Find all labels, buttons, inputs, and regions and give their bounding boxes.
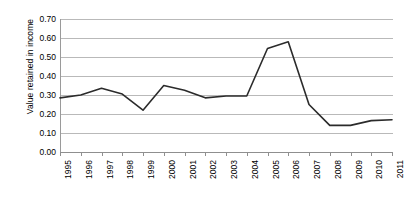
x-tick [371, 152, 372, 156]
x-tick-label: 1998 [126, 160, 135, 179]
x-tick-label: 2000 [168, 160, 177, 179]
x-tick-label: 2001 [189, 160, 198, 179]
x-tick [185, 152, 186, 156]
x-tick [122, 152, 123, 156]
series-polyline [60, 42, 392, 126]
x-tick [309, 152, 310, 156]
x-tick-label: 2003 [230, 160, 239, 179]
x-tick-label: 1999 [147, 160, 156, 179]
x-tick-label: 2006 [292, 160, 301, 179]
x-tick-label: 1995 [64, 160, 73, 179]
x-tick-label: 1997 [106, 160, 115, 179]
x-tick [60, 152, 61, 156]
x-tick [164, 152, 165, 156]
x-tick [330, 152, 331, 156]
x-tick-label: 2004 [251, 160, 260, 179]
x-tick-label: 2005 [272, 160, 281, 179]
x-tick [81, 152, 82, 156]
x-tick [102, 152, 103, 156]
x-tick-label: 2010 [375, 160, 384, 179]
x-tick [268, 152, 269, 156]
y-tick-label: 0.60 [39, 33, 56, 43]
y-tick-label: 0.30 [39, 90, 56, 100]
x-tick [247, 152, 248, 156]
x-tick-label: 2011 [396, 160, 405, 178]
x-tick-label: 2002 [209, 160, 218, 179]
y-tick-label: 0.50 [39, 52, 56, 62]
series-line [60, 19, 392, 152]
y-tick-label: 0.00 [39, 147, 56, 157]
y-tick-label: 0.20 [39, 109, 56, 119]
x-tick [205, 152, 206, 156]
x-tick-label: 2009 [355, 160, 364, 179]
y-axis-tick-labels: 0.700.600.500.400.300.200.100.00 [22, 14, 56, 159]
y-tick-label: 0.10 [39, 128, 56, 138]
y-tick-label: 0.70 [39, 14, 56, 24]
x-tick [351, 152, 352, 156]
x-tick [143, 152, 144, 156]
x-tick-label: 2008 [334, 160, 343, 179]
y-tick-label: 0.40 [39, 71, 56, 81]
x-tick-label: 1996 [85, 160, 94, 179]
x-tick [288, 152, 289, 156]
x-tick-label: 2007 [313, 160, 322, 179]
x-tick [226, 152, 227, 156]
x-tick [392, 152, 393, 156]
